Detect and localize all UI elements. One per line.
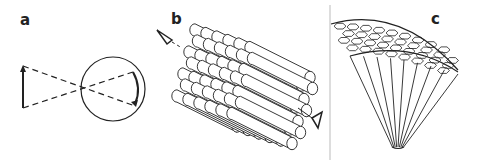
hex-facet [369,34,381,40]
rod-end [295,126,305,138]
hex-facet [382,36,394,42]
panel-label-b: b [171,10,182,28]
eye-icon-left [157,30,172,44]
hex-facet [360,46,372,52]
hex-facet [408,43,420,49]
hex-facet [421,47,433,53]
hex-facet [399,33,411,39]
ray-bottom [23,72,133,108]
eye-icon-right [312,112,322,128]
hex-facet [334,23,346,29]
hex-facet [347,24,359,30]
diagram: a b c [0,0,478,165]
panel-label-a: a [20,11,30,29]
ommatidium-line [399,63,417,147]
ommatidia-lines [350,56,458,149]
rod-end [307,82,317,94]
ommatidium-line [398,60,404,147]
hex-facet [377,42,389,48]
view-line-left [172,42,182,48]
hex-facet [343,31,355,37]
panel-c: c [331,10,459,149]
rod-end [301,104,311,116]
lens-circle [81,57,145,121]
ommatidium-line [391,58,397,147]
panel-label-c: c [431,10,440,28]
hex-facet [351,38,363,44]
ommatidium-line [401,66,431,147]
hex-facet [356,32,368,38]
hex-facet [386,30,398,36]
hex-facet [373,27,385,33]
hex-facet [386,51,398,57]
hex-facet [347,45,359,51]
hex-facet [360,25,372,31]
ommatidia-base [392,147,404,149]
image-arrowhead [131,100,138,107]
hex-facets [334,23,459,73]
panel-a: a [20,11,145,121]
panel-b: b [157,10,322,150]
rod-end [287,137,297,149]
hex-facet [338,38,350,44]
ommatidium-line [404,74,458,147]
hex-facet [364,40,376,46]
image-arrow [133,72,138,104]
hex-facet [390,45,402,51]
ommatidium-line [364,56,394,147]
hex-facet [395,39,407,45]
ommatidium-line [402,70,444,147]
hex-facet [399,54,411,60]
rod-bundle [172,24,318,150]
ray-top [23,66,135,106]
